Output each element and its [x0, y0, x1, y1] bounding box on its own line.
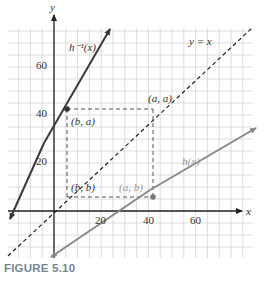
figure-graph: y x 60 40 20 20 40 60 h⁻¹(x) y = x h(x) … — [0, 0, 268, 260]
y-tick-40: 40 — [36, 107, 48, 119]
y-tick-20: 20 — [36, 155, 48, 167]
label-point-a-a: (a, a) — [148, 92, 172, 105]
label-point-b-b: (b, b) — [71, 181, 95, 194]
label-h-inverse: h⁻¹(x) — [69, 41, 96, 54]
label-y-equals-x: y = x — [188, 35, 212, 47]
label-point-b-a: (b, a) — [71, 115, 95, 128]
x-tick-20: 20 — [95, 214, 107, 226]
x-tick-40: 40 — [143, 214, 155, 226]
curve-h-upper — [150, 128, 256, 190]
point-a-b — [150, 194, 156, 200]
x-tick-60: 60 — [190, 214, 202, 226]
figure-caption: FIGURE 5.10 — [4, 262, 75, 274]
x-axis-label: x — [245, 205, 251, 217]
point-b-a — [64, 106, 70, 112]
y-tick-60: 60 — [36, 59, 48, 71]
y-axis-label: y — [49, 1, 55, 13]
label-point-a-b: (a, b) — [119, 181, 143, 194]
label-h: h(x) — [182, 155, 200, 168]
